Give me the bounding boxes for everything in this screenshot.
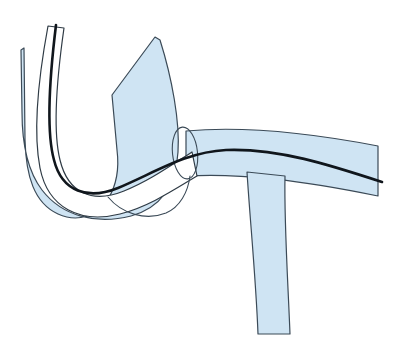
vessel-catheter-diagram: Vessel catheter junction illustration <box>0 0 416 354</box>
vessel-group <box>21 37 378 334</box>
illustration-canvas: Vessel catheter junction illustration li… <box>0 0 416 354</box>
vessel-side-branch <box>247 172 290 334</box>
